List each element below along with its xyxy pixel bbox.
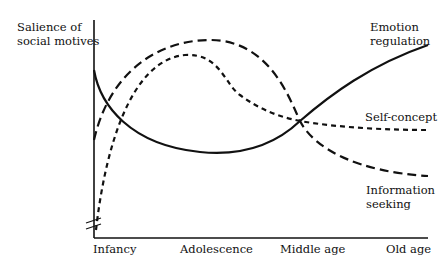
y-axis-label: Salience of social motives <box>17 20 99 48</box>
label-line: Information <box>366 183 435 197</box>
label-line: regulation <box>370 34 430 48</box>
y-axis-label-line1: Salience of <box>17 20 99 34</box>
curve-emotion-regulation <box>94 45 428 153</box>
curve-information-seeking <box>94 40 428 176</box>
label-line: seeking <box>366 197 435 211</box>
x-tick-middle-age: Middle age <box>280 242 345 255</box>
label-information-seeking: Information seeking <box>366 183 435 211</box>
x-tick-old-age: Old age <box>386 242 431 255</box>
label-line: Emotion <box>370 20 430 34</box>
y-axis-label-line2: social motives <box>17 34 99 48</box>
label-self-concept: Self-concept <box>365 110 437 124</box>
x-tick-infancy: Infancy <box>93 242 136 255</box>
label-emotion-regulation: Emotion regulation <box>370 20 430 48</box>
x-tick-adolescence: Adolescence <box>180 242 253 255</box>
label-line: Self-concept <box>365 110 437 124</box>
